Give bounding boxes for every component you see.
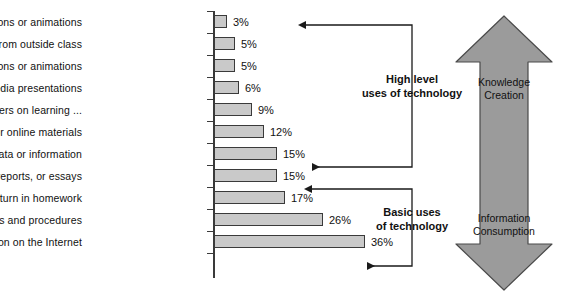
bar	[214, 191, 285, 204]
knowledge-creation-line1: Knowledge	[452, 76, 556, 89]
bar	[214, 103, 252, 116]
category-label: Work with others from outside class	[0, 33, 82, 55]
axis-tick	[207, 55, 214, 56]
information-consumption-line2: Consumption	[452, 225, 556, 238]
bar-value-label: 17%	[291, 187, 313, 209]
bar-value-label: 15%	[283, 165, 305, 187]
category-label: Analyse data or information	[0, 143, 82, 165]
information-consumption-label: Information Consumption	[452, 212, 556, 238]
bar	[214, 147, 277, 160]
bar-value-label: 5%	[241, 55, 257, 77]
axis-tick	[207, 77, 214, 78]
bar	[214, 59, 235, 72]
bar	[214, 213, 323, 226]
bar-row: Collaborate with peers on learning ...9%	[0, 99, 430, 121]
axis-tick	[207, 33, 214, 34]
double-headed-arrow-shape	[452, 14, 556, 292]
category-label: Take tests or turn in homework	[0, 187, 82, 209]
knowledge-creation-label: Knowledge Creation	[452, 76, 556, 102]
axis-tick	[207, 231, 214, 232]
axis-tick	[207, 99, 214, 100]
information-consumption-line1: Information	[452, 212, 556, 225]
bar-chart: Develop simulations or animations3%Work …	[0, 0, 430, 305]
axis-tick	[207, 253, 214, 254]
bar-row: Work with others from outside class5%	[0, 33, 430, 55]
knowledge-creation-line2: Creation	[452, 89, 556, 102]
technology-uses-bar-chart-figure: Develop simulations or animations3%Work …	[0, 0, 562, 305]
bar-row: Find information on the Internet36%	[0, 231, 430, 253]
category-label: Practise routine skills and procedures	[0, 209, 82, 231]
category-label: Collaborate with peers on learning ...	[0, 99, 82, 121]
bar	[214, 15, 227, 28]
bar	[214, 125, 264, 138]
bar-value-label: 9%	[258, 99, 274, 121]
bar	[214, 235, 365, 248]
category-label: Develop simulations or animations	[0, 11, 82, 33]
axis-tick	[207, 165, 214, 166]
bar	[214, 81, 239, 94]
category-label: Create multimedia presentations	[0, 77, 82, 99]
axis-tick	[207, 11, 214, 12]
bar-row: Analyse data or information15%	[0, 143, 430, 165]
bar-value-label: 36%	[371, 231, 393, 253]
axis-tick	[207, 187, 214, 188]
category-label: Access class resources or online materia…	[0, 121, 82, 143]
bar-row: Write or edit stories, reports, or essay…	[0, 165, 430, 187]
bar-value-label: 12%	[270, 121, 292, 143]
bar-value-label: 5%	[241, 33, 257, 55]
axis-tick	[207, 143, 214, 144]
category-label: Use simulations or animations	[0, 55, 82, 77]
bar	[214, 37, 235, 50]
bar	[214, 169, 277, 182]
bar-row: Develop simulations or animations3%	[0, 11, 430, 33]
axis-tick	[207, 121, 214, 122]
axis-tick	[207, 209, 214, 210]
category-label: Find information on the Internet	[0, 231, 82, 253]
bar-value-label: 3%	[233, 11, 249, 33]
category-label: Write or edit stories, reports, or essay…	[0, 165, 82, 187]
bar-row: Access class resources or online materia…	[0, 121, 430, 143]
knowledge-continuum-arrow: Knowledge Creation Information Consumpti…	[452, 14, 556, 292]
bar-value-label: 15%	[283, 143, 305, 165]
bar-value-label: 6%	[245, 77, 261, 99]
